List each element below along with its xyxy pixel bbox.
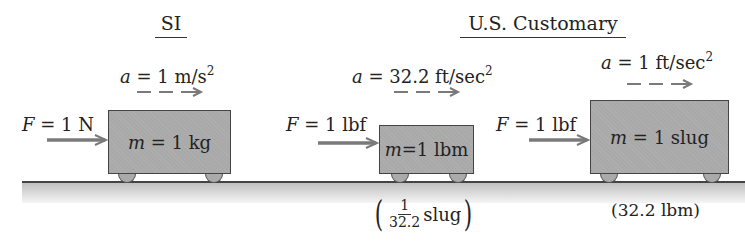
force-var: F: [22, 114, 35, 135]
fraction: 1 32.2: [389, 198, 420, 230]
us-lbm-acceleration-label: a = 32.2 ft/sec2: [352, 66, 493, 87]
us-lbm-acceleration-arrow-icon: [392, 86, 464, 98]
us-slug-mass-block: m = 1 slug: [590, 100, 729, 174]
heading-si-underline: [155, 34, 187, 38]
force-value: = 1 lbf: [304, 114, 366, 135]
accel-value: = 32.2 ft/sec: [368, 66, 485, 87]
us-slug-force-label: F = 1 lbf: [496, 114, 576, 135]
si-force-label: F = 1 N: [22, 114, 94, 135]
us-lbm-force-arrow-icon: [316, 136, 381, 150]
heading-si-text: SI: [161, 12, 182, 34]
force-var: F: [496, 114, 509, 135]
accel-exponent: 2: [485, 64, 493, 78]
si-acceleration-arrow-icon: [135, 86, 207, 98]
mass-value: = 1 kg: [151, 132, 211, 153]
force-var: F: [286, 114, 299, 135]
accel-value: = 1 ft/sec: [617, 52, 705, 73]
us-lbm-force-label: F = 1 lbf: [286, 114, 366, 135]
fraction-denominator: 32.2: [389, 215, 420, 230]
us-slug-lbm-note: (32.2 lbm): [611, 200, 700, 220]
accel-var: a: [120, 66, 131, 87]
us-slug-force-arrow-icon: [527, 133, 592, 147]
heading-us-underline: [460, 34, 626, 38]
heading-us-customary: U.S. Customary: [460, 12, 626, 38]
mass-value: = 1 slug: [633, 127, 709, 148]
accel-exponent: 2: [705, 50, 713, 64]
us-lbm-mass-block: m=1 lbm: [379, 125, 474, 174]
paren-close: ): [464, 196, 472, 232]
si-force-arrow-icon: [45, 133, 110, 147]
mass-var: m: [385, 139, 402, 160]
fraction-numerator: 1: [398, 198, 411, 214]
mass-var: m: [610, 127, 627, 148]
si-acceleration-label: a = 1 m/s2: [120, 66, 214, 87]
heading-si: SI: [155, 12, 187, 38]
force-value: = 1 N: [40, 114, 94, 135]
accel-value: = 1 m/s: [136, 66, 206, 87]
heading-us-text: U.S. Customary: [468, 12, 618, 34]
si-mass-block: m = 1 kg: [108, 110, 231, 174]
us-slug-acceleration-label: a = 1 ft/sec2: [601, 52, 713, 73]
force-value: = 1 lbf: [514, 114, 576, 135]
accel-var: a: [601, 52, 612, 73]
mass-value: =1 lbm: [402, 139, 469, 160]
note-unit: slug: [423, 204, 461, 225]
us-slug-acceleration-arrow-icon: [625, 78, 697, 90]
mass-var: m: [128, 132, 145, 153]
paren-open: (: [375, 196, 383, 232]
accel-var: a: [352, 66, 363, 87]
us-lbm-slug-note: ( 1 32.2 slug ): [372, 196, 475, 232]
accel-exponent: 2: [207, 64, 215, 78]
